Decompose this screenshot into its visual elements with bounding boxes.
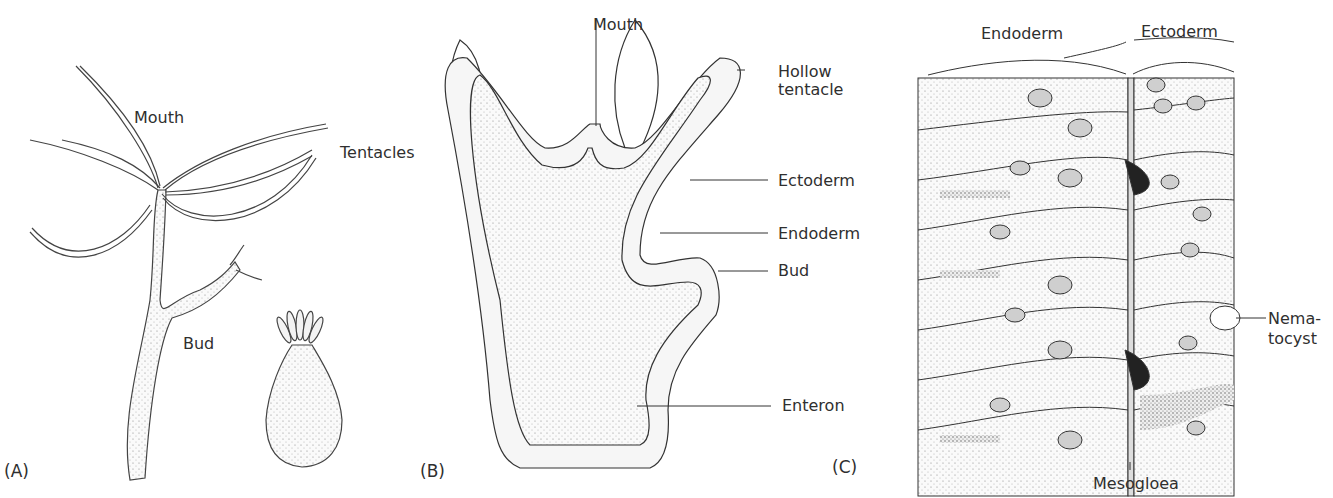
label-endoderm-c: Endoderm <box>981 24 1063 43</box>
panel-label-b: (B) <box>420 461 445 481</box>
label-mouth-section: Mouth <box>593 15 643 34</box>
section-drawing <box>445 20 771 468</box>
label-ectoderm-c: Ectoderm <box>1141 22 1218 41</box>
label-nematocyst-1: Nema- <box>1268 309 1321 328</box>
label-enteron: Enteron <box>782 396 845 415</box>
panel-label-a: (A) <box>4 461 29 481</box>
contracted-hydra-drawing <box>266 310 342 467</box>
label-ectoderm-section: Ectoderm <box>778 171 855 190</box>
label-nematocyst-2: tocyst <box>1268 329 1317 348</box>
label-tentacles: Tentacles <box>340 143 415 162</box>
label-mesogloea: Mesogloea <box>1093 474 1179 493</box>
label-bud-section: Bud <box>778 261 809 280</box>
body-wall-drawing <box>918 38 1266 496</box>
figure-artwork <box>0 0 1333 498</box>
label-mouth-a: Mouth <box>134 108 184 127</box>
label-bud-a: Bud <box>183 334 214 353</box>
label-endoderm-section: Endoderm <box>778 224 860 243</box>
label-hollow-tentacle-1: Hollow <box>778 62 832 81</box>
label-hollow-tentacle-2: tentacle <box>778 80 843 99</box>
panel-label-c: (C) <box>832 457 857 477</box>
